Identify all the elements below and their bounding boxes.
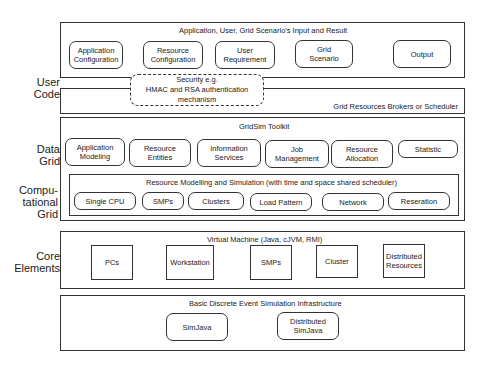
output-box: Output — [393, 40, 451, 68]
information-services-box: InformationServices — [197, 139, 261, 167]
application-modeling-box: ApplicationModeling — [65, 138, 125, 166]
input-result-layer: Application, User, Grid Scenario's Input… — [60, 22, 465, 78]
side-label-user-code: User Code — [18, 76, 60, 100]
workstation-box: Workstation — [166, 245, 214, 280]
resource-allocation-box: ResourceAllocation — [331, 140, 393, 168]
resource-configuration-box: ResourceConfiguration — [143, 41, 203, 69]
simulation-infrastructure-layer: Basic Discrete Event Simulation Infrastr… — [60, 295, 465, 351]
input-result-title: Application, User, Grid Scenario's Input… — [179, 26, 347, 35]
distributed-resources-box: DistributedResources — [383, 244, 425, 278]
brokers-title: Grid Resources Brokers or Scheduler — [333, 102, 458, 111]
pcs-box: PCs — [91, 245, 133, 280]
resource-modelling-title: Resource Modelling and Simulation (with … — [146, 178, 397, 187]
resource-modelling-layer: Resource Modelling and Simulation (with … — [69, 174, 459, 216]
simjava-box: SimJava — [166, 313, 228, 341]
application-configuration-box: ApplicationConfiguration — [69, 41, 123, 69]
side-label-core-elements: Core Elements — [10, 250, 60, 274]
virtual-machine-title: Virtual Machine (Java, cJVM, RMI) — [207, 235, 322, 244]
simulation-infrastructure-title: Basic Discrete Event Simulation Infrastr… — [189, 299, 342, 308]
security-box: Security e.g. HMAC and RSA authenticatio… — [130, 74, 264, 106]
smps-box: SMPs — [142, 192, 184, 210]
side-label-data-grid: Data Grid — [18, 143, 60, 167]
side-label-computational-grid: Compu- tational Grid — [10, 184, 58, 220]
smps-vm-box: SMPs — [250, 245, 292, 280]
job-management-box: JobManagement — [265, 140, 329, 168]
gridsim-toolkit-title: GridSim Toolkit — [239, 122, 289, 131]
single-cpu-box: Single CPU — [74, 192, 136, 210]
clusters-box: Clusters — [188, 192, 244, 210]
load-pattern-box: Load Pattern — [250, 193, 312, 211]
resource-entities-box: ResourceEntities — [129, 139, 191, 167]
grid-scenario-box: GridScenario — [295, 40, 353, 68]
cluster-box: Cluster — [316, 245, 358, 278]
network-box: Network — [322, 193, 384, 211]
reseration-box: Reseration — [388, 192, 450, 210]
user-requirement-box: UserRequirement — [215, 41, 275, 69]
distributed-simjava-box: DistributedSimJava — [277, 312, 339, 340]
gridsim-toolkit-layer: GridSim Toolkit ApplicationModeling Reso… — [60, 117, 465, 221]
statistic-box: Statistic — [398, 140, 458, 158]
virtual-machine-layer: Virtual Machine (Java, cJVM, RMI) PCs Wo… — [60, 231, 465, 289]
